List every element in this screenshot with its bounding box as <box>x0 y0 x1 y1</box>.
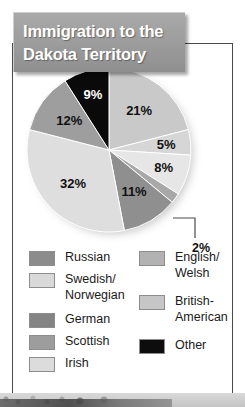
page-edge-shadow <box>0 399 172 407</box>
legend-item[interactable]: Irish <box>29 356 89 372</box>
pie-svg: 21%5%8%11%32%12%9% <box>25 66 210 251</box>
legend-swatch <box>29 313 55 328</box>
callout-leader-line <box>173 218 195 238</box>
legend-swatch <box>29 251 55 266</box>
legend-item[interactable]: Other <box>139 338 206 354</box>
legend-swatch <box>29 273 55 288</box>
pie-slice-label: 9% <box>84 87 103 102</box>
pie-graphic: 21%5%8%11%32%12%9% 2% <box>25 66 210 251</box>
legend-swatch <box>29 335 55 350</box>
page-title-line-1: Immigration to the <box>23 20 185 43</box>
legend-item[interactable]: British- American <box>139 294 228 325</box>
legend-label: English/ Welsh <box>175 250 219 281</box>
legend-label: Scottish <box>65 334 109 350</box>
legend-label: Russian <box>65 250 110 266</box>
pie-slice-label: 8% <box>154 160 173 175</box>
legend-item[interactable]: German <box>29 312 110 328</box>
legend-item[interactable]: Swedish/ Norwegian <box>29 272 125 303</box>
pie-slice-label: 21% <box>126 103 152 118</box>
legend-item[interactable]: English/ Welsh <box>139 250 219 281</box>
legend-label: Irish <box>65 356 89 372</box>
legend-label: British- American <box>175 294 228 325</box>
legend-swatch <box>139 339 165 354</box>
legend-item[interactable]: Scottish <box>29 334 109 350</box>
pie-chart: 21%5%8%11%32%12%9% 2% <box>13 44 234 259</box>
legend-label: Other <box>175 338 206 354</box>
legend-label: Swedish/ Norwegian <box>65 272 125 303</box>
pie-slice-label: 32% <box>60 176 86 191</box>
legend-label: German <box>65 312 110 328</box>
pie-slice-label: 5% <box>157 137 176 152</box>
legend-swatch <box>29 357 55 372</box>
legend-swatch <box>139 251 165 266</box>
pie-slice-label: 11% <box>121 184 147 199</box>
legend-swatch <box>139 295 165 310</box>
chart-legend: RussianSwedish/ NorwegianGermanScottishI… <box>13 250 234 396</box>
chart-panel: 21%5%8%11%32%12%9% 2% RussianSwedish/ No… <box>12 43 233 395</box>
title-banner: Immigration to the Dakota Territory <box>13 12 185 72</box>
figure-root: 21%5%8%11%32%12%9% 2% RussianSwedish/ No… <box>0 0 245 407</box>
legend-item[interactable]: Russian <box>29 250 110 266</box>
page-title-line-2: Dakota Territory <box>23 43 185 66</box>
pie-slice-label: 12% <box>56 113 82 128</box>
